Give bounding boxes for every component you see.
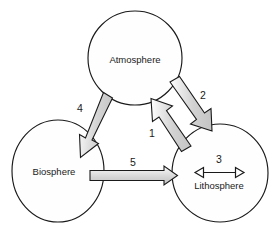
arrow-1-shape[interactable] [151,99,191,152]
sphere-cycle-diagram: Atmosphere Biosphere Lithosphere 1 2 3 4… [0,0,272,238]
arrow-label-2: 2 [200,89,206,101]
arrow-label-3: 3 [216,153,222,165]
diagram-canvas: Atmosphere Biosphere Lithosphere 1 2 3 4… [0,0,272,238]
arrow-label-5: 5 [130,156,136,168]
arrow-2-shape[interactable] [170,77,212,132]
node-label-biosphere: Biosphere [33,166,76,177]
arrow-label-4: 4 [77,102,83,114]
node-label-atmosphere: Atmosphere [109,54,160,65]
node-label-lithosphere: Lithosphere [194,180,244,191]
arrow-label-1: 1 [149,127,155,139]
